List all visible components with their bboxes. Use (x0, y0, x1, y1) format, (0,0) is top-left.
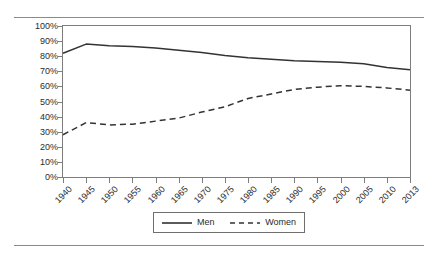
x-tick-mark (86, 178, 87, 183)
x-tick-mark (410, 178, 411, 183)
y-tick-label: 100% (35, 22, 58, 31)
x-tick-mark (294, 178, 295, 183)
legend-label-women: Women (265, 218, 296, 227)
x-tick-label: 1975 (215, 184, 236, 205)
x-tick-label: 2010 (377, 184, 398, 205)
legend-line-dashed-icon (230, 219, 260, 227)
plot-area (62, 25, 411, 178)
y-axis: 0%10%20%30%40%50%60%70%80%90%100% (0, 25, 58, 178)
x-tick-label: 1980 (238, 184, 259, 205)
figure-top-rule (14, 17, 424, 18)
x-tick-mark (364, 178, 365, 183)
x-tick-mark (156, 178, 157, 183)
series-line-men (63, 44, 410, 70)
x-tick-mark (132, 178, 133, 183)
y-tick-label: 90% (40, 37, 58, 46)
x-tick-mark (202, 178, 203, 183)
x-tick-label: 1970 (192, 184, 213, 205)
x-tick-label: 2005 (354, 184, 375, 205)
x-tick-mark (109, 178, 110, 183)
x-tick-label: 1995 (307, 184, 328, 205)
legend-item-women[interactable]: Women (230, 218, 296, 227)
series-line-women (63, 86, 410, 135)
y-tick-label: 50% (40, 97, 58, 106)
chart-legend: Men Women (153, 212, 305, 233)
y-tick-label: 60% (40, 82, 58, 91)
figure-panel: 0%10%20%30%40%50%60%70%80%90%100% 194019… (0, 0, 438, 254)
x-tick-label: 1950 (99, 184, 120, 205)
y-tick-label: 80% (40, 52, 58, 61)
x-tick-label: 1990 (284, 184, 305, 205)
y-tick-label: 10% (40, 157, 58, 166)
x-tick-label: 2000 (330, 184, 351, 205)
legend-line-solid-icon (162, 219, 192, 227)
x-tick-mark (271, 178, 272, 183)
x-tick-label: 1965 (168, 184, 189, 205)
y-tick-label: 20% (40, 142, 58, 151)
figure-bottom-rule (14, 245, 424, 246)
x-tick-mark (63, 178, 64, 183)
x-tick-label: 1960 (145, 184, 166, 205)
y-tick-label: 40% (40, 112, 58, 121)
x-tick-label: 1940 (53, 184, 74, 205)
x-tick-mark (179, 178, 180, 183)
x-tick-label: 1985 (261, 184, 282, 205)
line-chart: 0%10%20%30%40%50%60%70%80%90%100% 194019… (0, 20, 438, 220)
y-tick-label: 70% (40, 67, 58, 76)
x-tick-label: 1945 (76, 184, 97, 205)
legend-item-men[interactable]: Men (162, 218, 215, 227)
y-tick-label: 0% (45, 173, 58, 182)
legend-label-men: Men (197, 218, 215, 227)
x-tick-mark (341, 178, 342, 183)
x-tick-label: 2013 (400, 184, 421, 205)
x-tick-mark (225, 178, 226, 183)
x-tick-mark (248, 178, 249, 183)
series-layer (63, 26, 410, 177)
x-tick-mark (387, 178, 388, 183)
y-tick-label: 30% (40, 127, 58, 136)
x-tick-mark (317, 178, 318, 183)
x-tick-label: 1955 (122, 184, 143, 205)
